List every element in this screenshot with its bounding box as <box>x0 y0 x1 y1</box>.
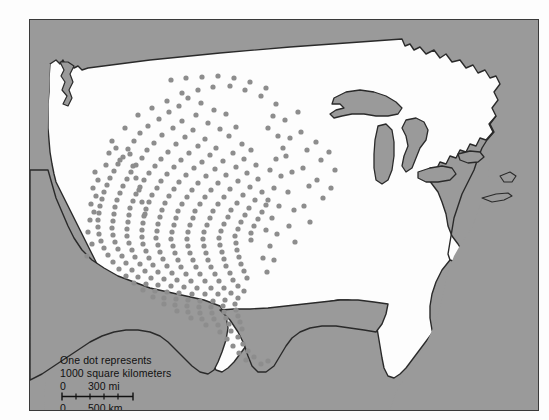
density-dot <box>199 316 204 321</box>
density-dot <box>110 218 115 223</box>
density-dot <box>193 264 198 269</box>
density-dot <box>300 165 305 170</box>
density-dot <box>201 229 206 234</box>
density-dot <box>150 294 155 299</box>
density-dot <box>282 117 287 122</box>
density-dot <box>258 361 263 366</box>
density-dot <box>241 268 246 273</box>
density-dot <box>142 268 147 273</box>
density-dot <box>183 75 188 80</box>
density-dot <box>220 303 225 308</box>
density-dot <box>226 133 231 138</box>
density-dot <box>123 273 128 278</box>
density-dot <box>137 261 142 266</box>
density-dot <box>95 224 100 229</box>
density-dot <box>235 295 240 300</box>
density-dot <box>231 75 236 80</box>
density-dot <box>103 162 108 167</box>
density-dot <box>215 73 220 78</box>
density-dot <box>235 283 240 288</box>
density-dot <box>233 240 238 245</box>
scale-miles-zero: 0 <box>60 380 66 392</box>
density-dot <box>123 260 128 265</box>
density-dot <box>168 236 173 241</box>
density-dot <box>203 250 208 255</box>
density-dot <box>190 257 195 262</box>
density-dot <box>84 253 89 258</box>
density-dot <box>172 250 177 255</box>
density-dot <box>227 270 232 275</box>
density-dot <box>286 223 291 228</box>
density-dot <box>201 243 206 248</box>
density-dot <box>233 124 238 129</box>
density-dot <box>178 264 183 269</box>
density-dot <box>318 157 323 162</box>
density-dot <box>248 147 253 152</box>
density-dot <box>157 214 162 219</box>
density-dot <box>332 167 337 172</box>
density-dot <box>165 149 170 154</box>
density-dot <box>97 203 102 208</box>
density-dot <box>236 350 241 355</box>
density-dot <box>203 173 208 178</box>
density-dot <box>199 74 204 79</box>
density-dot <box>227 83 232 88</box>
map-figure: One dot represents 1000 square kilometer… <box>0 0 549 420</box>
density-dot <box>161 276 166 281</box>
density-dot <box>95 177 100 182</box>
density-dot <box>241 288 246 293</box>
density-dot <box>234 200 239 205</box>
density-dot <box>258 93 263 98</box>
density-dot <box>239 326 244 331</box>
density-dot <box>169 270 174 275</box>
density-dot <box>192 208 197 213</box>
density-dot <box>259 189 264 194</box>
density-dot <box>251 354 256 359</box>
density-dot <box>149 105 154 110</box>
density-dot <box>208 264 213 269</box>
density-dot <box>164 289 169 294</box>
density-dot <box>271 257 276 262</box>
density-dot <box>218 228 223 233</box>
density-dot <box>107 175 112 180</box>
density-dot <box>248 230 253 235</box>
density-dot <box>185 309 190 314</box>
density-dot <box>176 179 181 184</box>
density-dot <box>183 271 188 276</box>
density-dot <box>159 207 164 212</box>
density-dot <box>194 285 199 290</box>
density-dot <box>263 202 268 207</box>
density-dot <box>117 157 122 162</box>
density-dot <box>221 221 226 226</box>
density-dot <box>202 278 207 283</box>
density-dot <box>168 283 173 288</box>
density-dot <box>301 203 306 208</box>
density-dot <box>221 285 226 290</box>
density-dot <box>197 310 202 315</box>
density-dot <box>146 255 151 260</box>
density-dot <box>198 100 203 105</box>
density-dot <box>145 123 150 128</box>
density-dot <box>215 201 220 206</box>
scale-km-value: 500 km <box>88 402 122 411</box>
density-dot <box>202 194 207 199</box>
density-dot <box>274 231 279 236</box>
density-dot <box>95 217 100 222</box>
density-dot <box>116 266 121 271</box>
density-dot <box>152 163 157 168</box>
density-dot <box>243 357 248 362</box>
density-dot <box>223 315 228 320</box>
density-dot <box>99 196 104 201</box>
density-dot <box>143 248 148 253</box>
density-dot <box>215 180 220 185</box>
density-dot <box>283 153 288 158</box>
density-dot <box>143 281 148 286</box>
density-dot <box>313 139 318 144</box>
density-dot <box>211 316 216 321</box>
density-dot <box>179 201 184 206</box>
density-dot <box>271 185 276 190</box>
density-dot <box>171 164 176 169</box>
density-dot <box>168 77 173 82</box>
scale-bar: 0 300 mi 0 500 km <box>60 380 180 411</box>
density-dot <box>202 136 207 141</box>
